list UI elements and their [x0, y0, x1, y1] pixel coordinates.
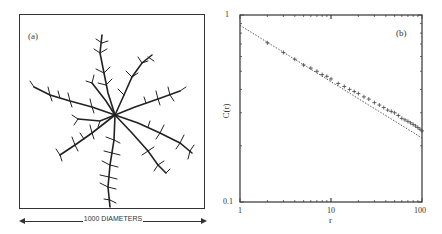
y-axis-title: C(r)	[221, 104, 231, 119]
chart-plot-area	[220, 0, 442, 234]
x-tick-label-1: 1	[238, 206, 242, 215]
data-point	[362, 95, 366, 99]
x-tick-label-100: 100	[414, 206, 426, 215]
data-point	[342, 84, 346, 88]
correlation-chart: 1 0.1 1 10 100 r C(r) (b)	[220, 0, 442, 234]
data-point	[336, 82, 340, 86]
data-point	[309, 66, 313, 70]
scale-line-right	[143, 221, 203, 222]
dla-cluster-panel: (a)	[19, 14, 205, 209]
data-point	[356, 92, 360, 96]
data-point	[396, 114, 400, 118]
data-point	[348, 87, 352, 91]
y-tick-label-1: 1	[225, 10, 229, 19]
dla-cluster-image	[20, 15, 206, 210]
data-point	[372, 101, 376, 105]
x-tick-label-10: 10	[327, 206, 335, 215]
arrow-right-icon	[201, 218, 207, 224]
data-point	[367, 97, 371, 101]
x-axis-title: r	[329, 215, 332, 225]
data-point	[382, 106, 386, 110]
panel-b-label: (b)	[396, 28, 407, 38]
data-point	[325, 74, 329, 78]
data-point	[386, 108, 390, 112]
data-point	[293, 57, 297, 61]
data-point	[377, 103, 381, 107]
y-tick-label-0-1: 0.1	[223, 197, 233, 206]
data-point	[320, 73, 324, 77]
scale-bar: 1000 DIAMETERS	[19, 215, 207, 227]
data-point	[352, 89, 356, 93]
data-point	[315, 69, 319, 73]
